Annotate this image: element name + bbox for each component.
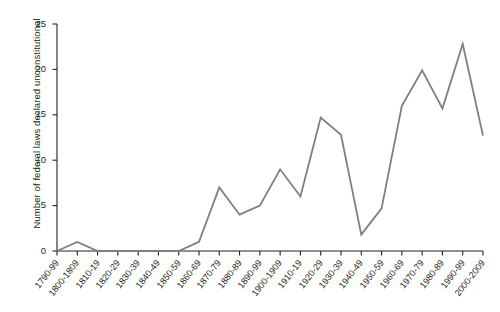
y-tick-label: 10 (24, 154, 46, 165)
y-tick-label: 0 (24, 245, 46, 256)
y-tick-label: 5 (24, 199, 46, 210)
y-tick-label: 20 (24, 63, 46, 74)
y-tick-label: 15 (24, 108, 46, 119)
y-tick-label: 25 (24, 18, 46, 29)
y-tick-marks (53, 24, 58, 251)
chart-figure: Number of federal laws declared unconsti… (0, 0, 500, 312)
chart-axes (57, 24, 483, 251)
data-series-line (57, 44, 483, 251)
